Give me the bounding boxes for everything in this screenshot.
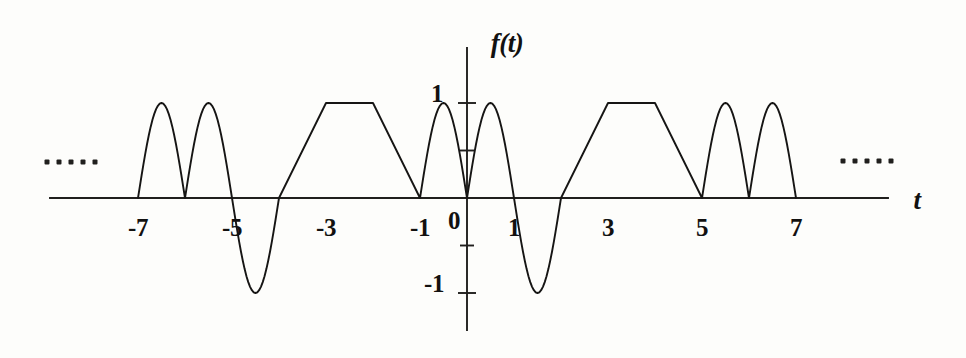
origin-label: 0 [448,208,460,233]
y-tick-label-1: 1 [431,81,443,106]
right-continuation-ellipsis [841,159,894,164]
x-tick-label-3: 3 [602,215,614,240]
x-tick-label-7: 7 [790,215,802,240]
x-tick-label-1: 1 [508,215,520,240]
y-axis-label: f(t) [491,30,523,57]
x-tick-label-5: 5 [696,215,708,240]
waveform-figure: f(t) t 0 -7-5-3-113571-1 [0,0,966,358]
plot-canvas [0,0,966,358]
x-tick-label--1: -1 [410,215,430,240]
x-tick-label--3: -3 [316,215,336,240]
x-tick-label--5: -5 [222,215,242,240]
left-continuation-ellipsis [45,160,98,165]
y-tick-label--1: -1 [424,271,444,296]
x-axis-label: t [913,187,920,214]
x-tick-label--7: -7 [128,215,148,240]
